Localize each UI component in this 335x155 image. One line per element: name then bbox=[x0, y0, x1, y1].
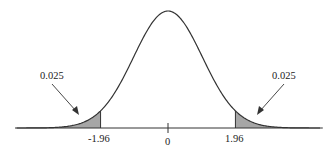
left-area-label: 0.025 bbox=[40, 71, 64, 82]
right-tail-shaded-region bbox=[235, 111, 322, 128]
right-area-label: 0.025 bbox=[272, 71, 296, 82]
left-annotation-arrow bbox=[52, 84, 79, 115]
tick-label-zero: 0 bbox=[165, 137, 170, 148]
right-annotation-arrow bbox=[257, 84, 284, 115]
tick-label-pos-1-96: 1.96 bbox=[225, 134, 243, 145]
tick-label-neg-1-96: -1.96 bbox=[88, 134, 110, 145]
left-tail-shaded-region bbox=[17, 111, 101, 128]
